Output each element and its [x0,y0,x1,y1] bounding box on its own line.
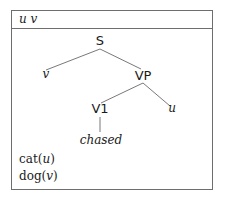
node-s: S [96,33,104,48]
edge-vp-u [143,83,170,106]
edge-vp-v1 [101,83,143,103]
node-chased: chased [80,133,123,147]
node-v: v [43,67,50,81]
edge-s-v [46,49,100,70]
node-v1: V1 [91,101,108,116]
node-u: u [168,101,176,115]
node-vp: VP [135,68,152,83]
condition-dog: dog(v) [19,169,58,183]
edge-s-vp [100,49,141,69]
condition-cat: cat(u) [19,152,55,166]
